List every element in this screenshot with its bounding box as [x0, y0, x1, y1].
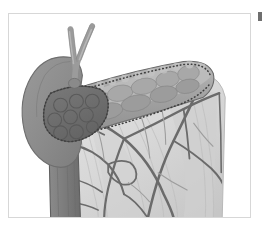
page-crop-mark — [258, 12, 262, 21]
anatomical-illustration — [9, 14, 250, 217]
figure-frame: Pancreas, duodenum, gallbladder and mese… — [8, 13, 251, 218]
duct-junction — [69, 78, 81, 88]
figure-page: Pancreas, duodenum, gallbladder and mese… — [0, 0, 268, 229]
